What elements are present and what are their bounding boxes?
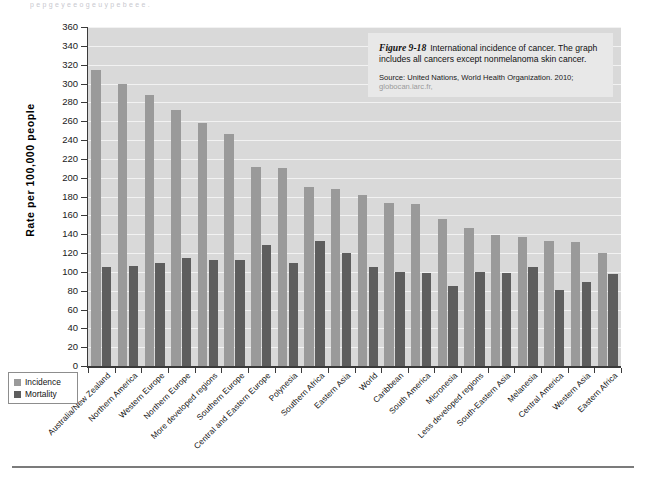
gridline (88, 234, 621, 235)
gridline (88, 121, 621, 122)
bar-incidence[interactable] (518, 237, 527, 366)
y-axis-tick (81, 178, 87, 179)
bar-mortality[interactable] (315, 241, 324, 366)
legend-label: Mortality (25, 389, 57, 399)
y-axis-tick (81, 65, 87, 66)
x-axis-label-south-eastern-asia: South-Eastern Asia (455, 371, 512, 428)
y-axis-tick (81, 46, 87, 47)
bar-mortality[interactable] (608, 274, 617, 366)
bar-mortality[interactable] (528, 267, 537, 366)
bar-group (118, 27, 138, 366)
bar-mortality[interactable] (582, 282, 591, 366)
bar-incidence[interactable] (411, 204, 420, 366)
bar-group (278, 27, 298, 366)
bar-incidence[interactable] (571, 242, 580, 366)
bar-incidence[interactable] (251, 167, 260, 366)
figure-caption-box: Figure 9-18International incidence of ca… (368, 33, 613, 97)
y-axis-tick-label: 180 (44, 191, 78, 202)
bar-incidence[interactable] (224, 134, 233, 366)
y-axis-tick (81, 215, 87, 216)
bar-mortality[interactable] (502, 273, 511, 366)
bar-mortality[interactable] (155, 263, 164, 366)
legend-swatch-icon (14, 391, 21, 398)
bar-incidence[interactable] (91, 70, 100, 366)
bar-incidence[interactable] (384, 203, 393, 366)
bar-incidence[interactable] (171, 110, 180, 366)
bar-mortality[interactable] (129, 266, 138, 366)
bar-group (198, 27, 218, 366)
bar-mortality[interactable] (395, 272, 404, 366)
y-axis-title: Rate per 100,000 people (24, 70, 36, 270)
bar-incidence[interactable] (544, 241, 553, 366)
y-axis-tick-label: 200 (44, 172, 78, 183)
gridline (88, 347, 621, 348)
caption-figure-number: Figure 9-18 (379, 42, 426, 53)
caption-source-prefix: Source: United Nations, World Health Org… (379, 73, 573, 82)
gridline (88, 215, 621, 216)
bar-mortality[interactable] (182, 258, 191, 366)
bar-incidence[interactable] (118, 84, 127, 367)
bar-group (224, 27, 244, 366)
bar-incidence[interactable] (438, 219, 447, 366)
y-axis-tick (81, 253, 87, 254)
bar-mortality[interactable] (555, 290, 564, 366)
bar-mortality[interactable] (475, 272, 484, 366)
y-axis-tick-label: 0 (44, 360, 78, 371)
bar-mortality[interactable] (262, 245, 271, 366)
bar-group (91, 27, 111, 366)
gridline (88, 253, 621, 254)
x-axis-tick (621, 368, 622, 373)
bar-incidence[interactable] (304, 187, 313, 366)
x-axis-label-world: World (357, 371, 379, 393)
caption-source-url: globocan.iarc.fr, (379, 82, 433, 91)
y-axis-tick (81, 328, 87, 329)
legend-item-mortality[interactable]: Mortality (14, 389, 72, 399)
y-axis-tick-label: 80 (44, 285, 78, 296)
gridline (88, 140, 621, 141)
y-axis-tick (81, 272, 87, 273)
y-axis-tick-label: 60 (44, 304, 78, 315)
bar-mortality[interactable] (102, 267, 111, 366)
y-axis-tick (81, 347, 87, 348)
bottom-divider-rule (12, 466, 634, 468)
y-axis-tick (81, 27, 87, 28)
y-axis-tick (81, 234, 87, 235)
legend-item-incidence[interactable]: Incidence (14, 377, 72, 387)
y-axis-tick (81, 310, 87, 311)
y-axis-tick (81, 84, 87, 85)
y-axis-tick-label: 40 (44, 322, 78, 333)
y-axis-tick-labels: 0204060801001201401601802002202402602803… (38, 14, 78, 374)
gridline (88, 178, 621, 179)
y-axis-tick-label: 320 (44, 59, 78, 70)
gridline (88, 291, 621, 292)
y-axis-line (87, 27, 88, 367)
x-axis-label-northern-america: Northern America (87, 371, 140, 424)
y-axis-tick-label: 100 (44, 266, 78, 277)
y-axis-tick-label: 360 (44, 21, 78, 32)
bar-incidence[interactable] (145, 95, 154, 366)
bar-incidence[interactable] (598, 253, 607, 366)
bar-mortality[interactable] (209, 260, 218, 366)
bar-incidence[interactable] (331, 189, 340, 366)
gridline (88, 197, 621, 198)
y-axis-tick-label: 220 (44, 153, 78, 164)
chart-legend: IncidenceMortality (8, 372, 78, 404)
bar-incidence[interactable] (198, 123, 207, 366)
bar-incidence[interactable] (278, 168, 287, 366)
y-axis-tick (81, 102, 87, 103)
x-axis-label-northern-europe: Northern Europe (142, 371, 192, 421)
bar-mortality[interactable] (342, 253, 351, 366)
y-axis-tick-label: 120 (44, 247, 78, 258)
bar-incidence[interactable] (358, 195, 367, 366)
bar-mortality[interactable] (289, 263, 298, 366)
bar-group (251, 27, 271, 366)
bar-mortality[interactable] (448, 286, 457, 366)
bar-mortality[interactable] (369, 267, 378, 366)
bar-incidence[interactable] (491, 235, 500, 366)
y-axis-tick-label: 140 (44, 228, 78, 239)
x-axis-label-southern-europe: Southern Europe (195, 371, 246, 422)
bar-mortality[interactable] (235, 260, 244, 366)
figure-container: 0204060801001201401601802002202402602803… (0, 14, 645, 454)
bar-mortality[interactable] (422, 273, 431, 366)
bar-incidence[interactable] (464, 228, 473, 366)
